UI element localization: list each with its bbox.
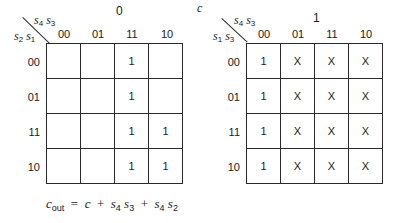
right-col-label: 01 — [281, 28, 315, 40]
kmap-row: 1 X X X — [247, 149, 383, 184]
kmap-cell: 1 — [115, 44, 149, 79]
carry-out-equation: cout = c + s4 s3 + s4 s2 — [46, 196, 178, 213]
kmap-cell — [47, 149, 81, 184]
left-col-label: 10 — [150, 28, 184, 40]
kmap-cell: X — [349, 79, 383, 114]
right-row-variables: s1 s3 — [213, 29, 234, 44]
kmap-cell: X — [349, 114, 383, 149]
kmap-cell — [47, 114, 81, 149]
right-row-label: 10 — [216, 161, 240, 173]
kmap-cell: 1 — [115, 114, 149, 149]
kmap-cell — [81, 149, 115, 184]
kmap-cell: 1 — [247, 79, 281, 114]
kmap-cell — [149, 44, 183, 79]
left-map-title: 0 — [116, 6, 123, 17]
kmap-cell: X — [349, 149, 383, 184]
kmap-cell: X — [315, 114, 349, 149]
left-col-label: 11 — [115, 28, 149, 40]
left-row-label: 01 — [16, 91, 40, 103]
kmap-cell: 1 — [247, 114, 281, 149]
kmap-cell: 1 — [247, 149, 281, 184]
kmap-cell — [149, 79, 183, 114]
kmap-cell: X — [281, 114, 315, 149]
right-col-variables: s4 s3 — [234, 13, 255, 28]
kmap-cell — [47, 79, 81, 114]
kmap-row: 1 1 — [47, 114, 183, 149]
kmap-cell: 1 — [115, 79, 149, 114]
kmap-cell: 1 — [149, 149, 183, 184]
kmap-cell: X — [281, 79, 315, 114]
left-kmap-grid: 1 1 1 1 1 1 — [46, 43, 183, 184]
kmap-cell: X — [315, 79, 349, 114]
right-map-title: 1 — [313, 13, 320, 24]
left-row-label: 11 — [16, 126, 40, 138]
kmap-cell — [47, 44, 81, 79]
kmap-cell: 1 — [115, 149, 149, 184]
input-c-label: c — [197, 1, 202, 16]
left-row-variables: s2 s1 — [14, 29, 35, 44]
kmap-row: 1 X X X — [247, 114, 383, 149]
kmap-cell — [81, 44, 115, 79]
kmap-row: 1 X X X — [247, 44, 383, 79]
kmap-row: 1 X X X — [247, 79, 383, 114]
kmap-cell: X — [315, 44, 349, 79]
left-row-label: 10 — [16, 161, 40, 173]
right-col-label: 00 — [247, 28, 281, 40]
kmap-row: 1 — [47, 44, 183, 79]
left-col-variables: s4 s3 — [34, 13, 55, 28]
kmap-cell: 1 — [247, 44, 281, 79]
kmap-cell: X — [281, 149, 315, 184]
right-row-label: 01 — [216, 91, 240, 103]
right-col-label: 11 — [315, 28, 349, 40]
kmap-cell — [81, 114, 115, 149]
kmap-row: 1 — [47, 79, 183, 114]
left-col-label: 00 — [47, 28, 81, 40]
kmap-cell: 1 — [149, 114, 183, 149]
kmap-cell — [81, 79, 115, 114]
kmap-cell: X — [281, 44, 315, 79]
right-kmap-grid: 1 X X X 1 X X X 1 X X X 1 X X X — [246, 43, 383, 184]
left-col-label: 01 — [81, 28, 115, 40]
kmap-cell: X — [315, 149, 349, 184]
kmap-cell: X — [349, 44, 383, 79]
right-col-label: 10 — [349, 28, 383, 40]
left-row-label: 00 — [16, 56, 40, 68]
right-row-label: 00 — [216, 56, 240, 68]
right-row-label: 11 — [216, 126, 240, 138]
kmap-row: 1 1 — [47, 149, 183, 184]
